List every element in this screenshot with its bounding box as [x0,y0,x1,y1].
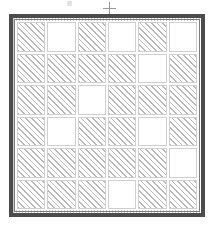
grid-cell [169,85,197,115]
grid-cell [138,85,166,115]
grid-cell [47,148,75,178]
figure-canvas [0,0,214,228]
grid-cell [17,180,45,210]
ink-speck-icon [67,1,72,6]
grid-cell [138,22,166,52]
grid-cell [169,117,197,147]
grid-cell [78,54,106,84]
grid-cell [17,54,45,84]
grid-cell [78,148,106,178]
grid-cell [47,180,75,210]
grid-cell [78,85,106,115]
grid-cell [169,148,197,178]
grid-cell [47,117,75,147]
grid-cell [47,85,75,115]
grid-cell [17,148,45,178]
grid-cell [78,117,106,147]
grid-cell [108,54,136,84]
grid-cell [138,180,166,210]
grid-cell [17,85,45,115]
grid-cell [138,54,166,84]
grid-cell [138,117,166,147]
grid-cell [108,180,136,210]
cell-grid [16,21,198,210]
grid-cell [108,22,136,52]
grid-cell [169,54,197,84]
grid-cell [17,117,45,147]
grid-cell [47,54,75,84]
grid-cell [169,180,197,210]
grid-cell [78,22,106,52]
grid-cell [47,22,75,52]
grid-cell [108,117,136,147]
grid-cell [78,180,106,210]
grid-cell [108,85,136,115]
grid-cell [138,148,166,178]
grid-cell [169,22,197,52]
grid-cell [17,22,45,52]
outer-frame [9,14,205,217]
grid-cell [108,148,136,178]
crosshair-horizontal-bar [103,8,116,9]
